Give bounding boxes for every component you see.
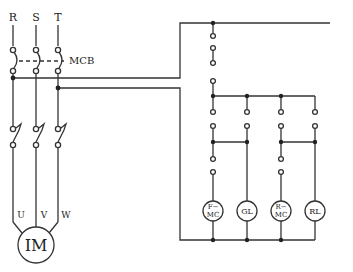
label-rmc-line1: R−	[275, 203, 286, 211]
label-rmc-line2: MC	[275, 211, 288, 219]
label-fmc-line2: MC	[207, 211, 220, 219]
label-terminal-u: U	[17, 210, 25, 220]
label-terminal-v: V	[40, 210, 48, 220]
label-motor: IM	[25, 236, 48, 255]
label-terminal-w: W	[61, 210, 71, 220]
label-fmc-line1: F−	[208, 203, 219, 211]
label-rl: RL	[309, 207, 321, 216]
mcb-breaker	[10, 47, 64, 73]
phase-lines-mid	[13, 74, 58, 126]
phase-lines-top	[13, 25, 58, 46]
label-mcb: MCB	[69, 55, 94, 66]
overload-contacts	[10, 124, 66, 200]
label-phase-t: T	[54, 11, 62, 24]
label-phase-s: S	[32, 11, 40, 24]
label-gl: GL	[241, 207, 253, 216]
label-phase-r: R	[9, 11, 18, 24]
circuit-diagram: R S T MCB U V W IM F− MC GL R− MC RL	[0, 0, 353, 272]
